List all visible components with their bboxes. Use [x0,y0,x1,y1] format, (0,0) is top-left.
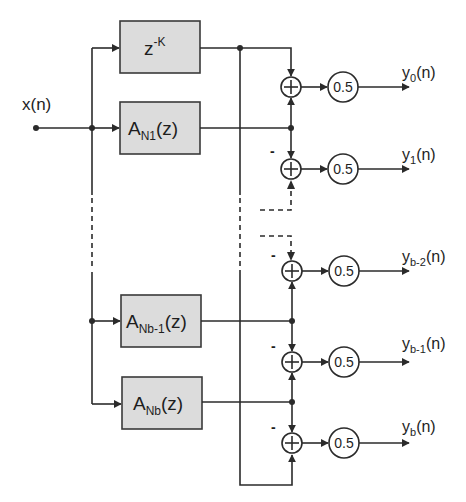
ANb-block: ANb(z) [122,377,202,429]
gain-b: 0.5 [329,428,359,458]
arrowhead [287,180,295,189]
svg-text:0.5: 0.5 [333,161,353,177]
gain-b-1: 0.5 [329,347,359,377]
middle-bus-bottom-loop [240,270,292,485]
summer-b [282,433,302,453]
delay-to-sum0 [200,48,291,76]
output-label-1: y1(n) [402,146,436,166]
summer-0 [281,77,301,97]
arrowhead [287,252,295,261]
filter-bank-diagram: x(n) z-K AN1(z) ANb-1(z) ANb(z) [0,0,466,502]
output-label-b-1: yb-1(n) [402,335,445,355]
input-label: x(n) [22,95,51,114]
summer-b-1 [282,352,302,372]
delay-block: z-K [120,21,200,73]
svg-text:0.5: 0.5 [333,79,353,95]
output-label-0: y0(n) [402,64,436,84]
minus-sign-b-2: - [271,247,276,263]
gain-0: 0.5 [328,72,358,102]
input-node: x(n) [22,95,51,131]
gain-1: 0.5 [328,154,358,184]
svg-text:0.5: 0.5 [334,263,354,279]
summer-b-2 [282,261,302,281]
AN1-block: AN1(z) [120,102,200,154]
ANb-1-block: ANb-1(z) [121,295,201,347]
svg-text:0.5: 0.5 [334,354,354,370]
minus-sign-b-1: - [271,338,276,354]
svg-text:0.5: 0.5 [334,435,354,451]
output-label-b-2: yb-2(n) [402,248,445,268]
output-label-b: yb(n) [402,418,436,438]
minus-sign-1: - [270,143,275,159]
minus-sign-b: - [271,419,276,435]
dashed-to-sum1 [260,182,291,210]
summer-1 [281,159,301,179]
gain-b-2: 0.5 [329,256,359,286]
